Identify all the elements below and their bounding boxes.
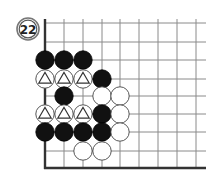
white-stone	[36, 70, 54, 88]
white-stone	[111, 123, 129, 141]
white-stone	[74, 105, 92, 123]
problem-number: 22	[20, 23, 37, 37]
black-stone	[55, 123, 73, 141]
black-stone	[93, 105, 111, 123]
white-stone	[93, 87, 111, 105]
black-stone	[55, 51, 73, 69]
white-stone	[55, 105, 73, 123]
black-stone	[93, 70, 111, 88]
white-stone	[55, 70, 73, 88]
white-stone	[74, 70, 92, 88]
problem-number-badge: 22	[17, 18, 39, 40]
black-stone	[74, 123, 92, 141]
black-stone	[74, 51, 92, 69]
white-stone	[93, 142, 111, 160]
white-stone	[111, 87, 129, 105]
go-board-diagram: 22	[0, 0, 211, 178]
black-stone	[36, 51, 54, 69]
white-stone	[111, 105, 129, 123]
black-stone	[36, 123, 54, 141]
white-stone	[74, 142, 92, 160]
white-stone	[36, 105, 54, 123]
black-stone	[55, 87, 73, 105]
black-stone	[93, 123, 111, 141]
stones-layer	[36, 51, 129, 160]
